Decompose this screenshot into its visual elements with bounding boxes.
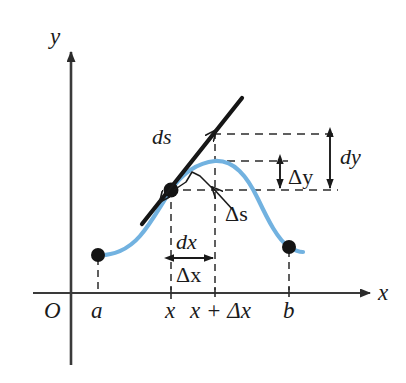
endpoint-dot-b [282,240,296,254]
ds-label: ds [152,126,172,148]
x-tick-label-b: b [283,299,295,322]
delta-s-label: Δs [225,203,248,225]
dy-label: dy [340,146,361,168]
tangency-point-dot [164,183,179,198]
x-tick-label-x: x [165,299,175,322]
x-tick-label-x-plus-delta-x: x + Δx [190,299,251,322]
origin-label: O [44,299,61,322]
function-curve [98,161,303,255]
dx-label: dx [176,231,197,253]
y-axis-label: y [50,25,60,48]
diagram-canvas [0,0,406,383]
x-tick-label-a: a [91,299,103,322]
x-axis-label: x [378,281,388,304]
delta-y-label: Δy [288,166,313,188]
endpoint-dot-a [91,248,105,262]
figure-root: y x O a x x + Δx b ds dy dx Δs Δy Δx [0,0,406,383]
delta-x-label: Δx [176,264,201,286]
